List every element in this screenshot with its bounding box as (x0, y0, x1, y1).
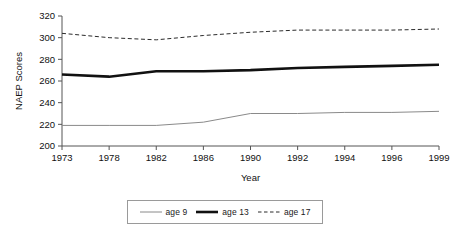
y-axis: 200220240260280300320 (39, 10, 62, 151)
x-tick-label: 1999 (428, 152, 449, 163)
legend-label-age-17: age 17 (284, 208, 311, 217)
y-tick-label: 240 (39, 97, 55, 108)
x-tick-label: 1996 (381, 152, 402, 163)
y-tick-label: 320 (39, 10, 55, 21)
legend-item-age-13[interactable]: age 13 (196, 208, 249, 217)
thin-gray-line-icon (140, 208, 162, 216)
thick-black-line-icon (196, 208, 218, 216)
x-tick-label: 1992 (287, 152, 308, 163)
dashed-line-icon (258, 208, 280, 216)
series-line-age-17 (62, 29, 439, 40)
y-tick-label: 300 (39, 32, 55, 43)
x-axis: 197319781982198619901992199419961999 (51, 146, 449, 163)
legend-item-age-17[interactable]: age 17 (258, 208, 311, 217)
legend-item-age-9[interactable]: age 9 (140, 208, 188, 217)
legend-label-age-13: age 13 (222, 208, 249, 217)
legend-label-age-9: age 9 (166, 208, 188, 217)
x-tick-label: 1978 (99, 152, 120, 163)
series-line-age-13 (62, 65, 439, 77)
y-tick-label: 260 (39, 75, 55, 86)
series-line-age-9 (62, 111, 439, 125)
data-series-group (62, 29, 439, 125)
x-tick-label: 1986 (193, 152, 214, 163)
chart-legend: age 9 age 13 age 17 (127, 200, 323, 224)
x-tick-label: 1990 (240, 152, 261, 163)
y-axis-title: NAEP Scores (13, 52, 24, 110)
x-axis-title: Year (241, 172, 260, 183)
y-tick-label: 220 (39, 119, 55, 130)
y-tick-label: 280 (39, 54, 55, 65)
x-tick-label: 1982 (146, 152, 167, 163)
x-tick-label: 1973 (51, 152, 72, 163)
y-tick-label: 200 (39, 140, 55, 151)
naep-scores-line-chart: 200220240260280300320 197319781982198619… (0, 0, 450, 240)
x-tick-label: 1994 (334, 152, 355, 163)
